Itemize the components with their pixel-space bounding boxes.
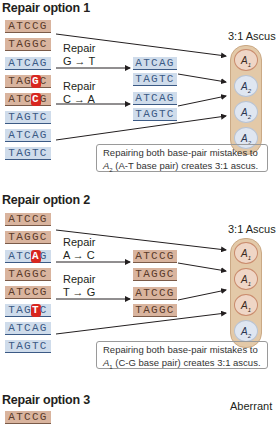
strand: ATCAG [5,322,51,335]
panel-2-title: Repair option 2 [2,193,90,207]
repaired-strand: TAGGC [133,304,177,317]
spore: A1 [234,242,258,264]
spore: A1 [234,268,258,290]
mismatch-base: T [31,304,41,317]
note-line: A2 (A-T base pair) creates 3:1 ascus. [103,160,261,176]
spore: A2 [234,320,258,342]
spore: A2 [234,101,258,123]
repaired-base: T [159,73,167,85]
strand: TAGTC [5,147,51,160]
strand: TAGTC [5,111,51,124]
note-box: Repairing both base-pair mistakes to A2 … [96,144,268,172]
repaired-strand: ATCCG [133,287,177,300]
strand: TAGGC [5,231,51,244]
spore: A2 [234,75,258,97]
strand: ATCCG [5,20,51,33]
repaired-strand: TAGGC [133,268,177,281]
ascus-label: Aberrant [230,400,272,412]
repair-label: Repair A → C [63,236,95,262]
mismatch-base: A [31,250,41,263]
repair-change: C → A [63,93,95,106]
strand-mismatch: ATCAG [5,250,51,263]
repaired-base: A [159,92,167,104]
strand: ATCCG [5,286,51,299]
panel-1-title: Repair option 1 [2,1,90,15]
strand: ATCCG [5,213,51,226]
repaired-strand: TAGTC [133,108,177,121]
repair-label: Repair T → G [63,273,95,299]
note-line: Repairing both base-pair mistakes to [103,147,261,160]
repair-change: G → T [63,55,95,68]
strand-mismatch: TAGTC [5,304,51,317]
repair-title: Repair [63,80,95,93]
ascus-label: 3:1 Ascus [228,223,276,235]
repaired-strand: ATCAG [133,92,177,105]
note-line: A1 (C-G base pair) creates 3:1 ascus. [103,357,261,373]
repair-change: A → C [63,249,95,262]
spore: A1 [234,294,258,316]
mismatch-base: G [31,75,41,88]
strand: TAGGC [5,268,51,281]
strand: ATCAG [5,57,51,70]
strand: TAGGC [5,38,51,51]
mismatch-base: C [31,93,41,106]
repair-title: Repair [63,236,95,249]
repaired-strand: TAGTC [133,73,177,86]
repair-change: T → G [63,286,95,299]
strand-mismatch: TAGGC [5,75,51,88]
repair-label: Repair C → A [63,80,95,106]
note-line: Repairing both base-pair mistakes to [103,344,261,357]
repaired-strand: ATCAG [133,57,177,70]
strand: ATCCG [5,411,51,424]
ascus: A1 A1 A1 A2 [230,238,262,348]
repair-label: Repair G → T [63,42,95,68]
strand: ATCAG [5,129,51,142]
repair-title: Repair [63,273,95,286]
ascus: A1 A2 A2 A2 [230,45,262,155]
spore: A1 [234,49,258,71]
strand-mismatch: ATCCG [5,93,51,106]
repaired-strand: ATCCG [133,250,177,263]
repaired-base: C [159,250,167,262]
note-box: Repairing both base-pair mistakes to A1 … [96,341,268,369]
ascus-label: 3:1 Ascus [228,30,276,42]
panel-3-title: Repair option 3 [2,393,90,407]
repair-title: Repair [63,42,95,55]
strand: TAGTC [5,340,51,353]
repaired-base: G [159,304,167,316]
